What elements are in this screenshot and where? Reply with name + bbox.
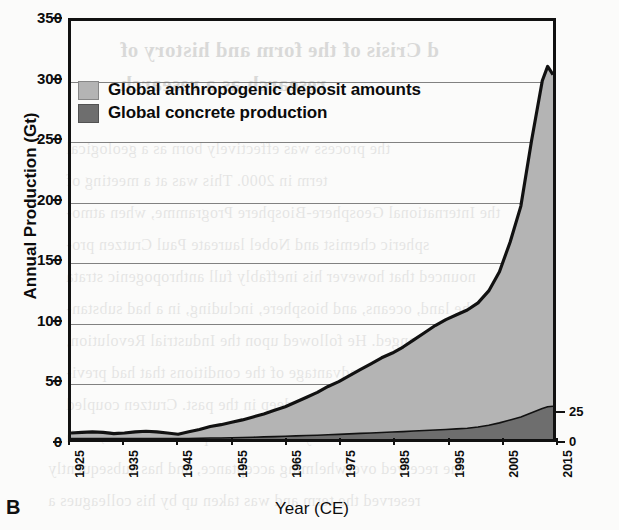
x-tick-mark-1965 bbox=[285, 438, 287, 445]
x-tick-label-1975: 1975 bbox=[344, 450, 358, 478]
y-tick-mark-150 bbox=[53, 259, 62, 261]
x-axis-title: Year (CE) bbox=[68, 499, 556, 519]
y-tick-mark-350 bbox=[53, 17, 62, 19]
legend-swatch-concrete-icon bbox=[78, 104, 99, 123]
y-tick-mark-200 bbox=[53, 199, 62, 201]
x-tick-mark-2015 bbox=[556, 438, 558, 445]
legend-label-concrete: Global concrete production bbox=[108, 103, 327, 123]
x-tick-mark-1925 bbox=[68, 438, 70, 445]
y-axis-right-ticks: 025 bbox=[556, 0, 616, 460]
panel-label: B bbox=[6, 496, 20, 519]
x-tick-label-1945: 1945 bbox=[181, 450, 195, 478]
x-tick-mark-1975 bbox=[339, 438, 341, 445]
legend-swatch-anthropogenic-icon bbox=[78, 81, 99, 100]
x-tick-label-1995: 1995 bbox=[453, 450, 467, 478]
x-tick-label-1965: 1965 bbox=[290, 450, 304, 478]
legend-item-concrete: Global concrete production bbox=[78, 103, 421, 123]
y-right-tick-label-25: 25 bbox=[569, 405, 583, 418]
legend-item-anthropogenic: Global anthropogenic deposit amounts bbox=[78, 80, 421, 100]
figure-panel-b: Annual Production (Gt) 05010015020025030… bbox=[0, 0, 619, 530]
x-tick-label-1935: 1935 bbox=[127, 450, 141, 478]
x-tick-mark-2005 bbox=[502, 438, 504, 445]
legend-label-anthropogenic: Global anthropogenic deposit amounts bbox=[108, 80, 421, 100]
x-tick-label-2015: 2015 bbox=[561, 450, 575, 478]
y-tick-mark-0 bbox=[53, 441, 62, 443]
y-tick-mark-50 bbox=[53, 380, 62, 382]
x-tick-label-1955: 1955 bbox=[236, 450, 250, 478]
y-tick-mark-250 bbox=[53, 138, 62, 140]
y-axis-left-ticks: 050100150200250300350 bbox=[0, 0, 62, 460]
x-tick-label-1925: 1925 bbox=[73, 450, 87, 478]
x-tick-label-2005: 2005 bbox=[507, 450, 521, 478]
chart-legend: Global anthropogenic deposit amounts Glo… bbox=[78, 80, 421, 126]
x-tick-mark-1945 bbox=[176, 438, 178, 445]
y-right-tick-label-0: 0 bbox=[569, 435, 576, 448]
x-tick-mark-1985 bbox=[393, 438, 395, 445]
y-tick-mark-300 bbox=[53, 78, 62, 80]
x-tick-mark-1935 bbox=[122, 438, 124, 445]
x-tick-mark-1995 bbox=[448, 438, 450, 445]
y-right-tick-mark-25 bbox=[556, 411, 565, 413]
x-axis-ticks: 1925193519451955196519751985199520052015 bbox=[68, 446, 560, 502]
x-tick-label-1985: 1985 bbox=[398, 450, 412, 478]
x-tick-mark-1955 bbox=[231, 438, 233, 445]
y-tick-mark-100 bbox=[53, 320, 62, 322]
